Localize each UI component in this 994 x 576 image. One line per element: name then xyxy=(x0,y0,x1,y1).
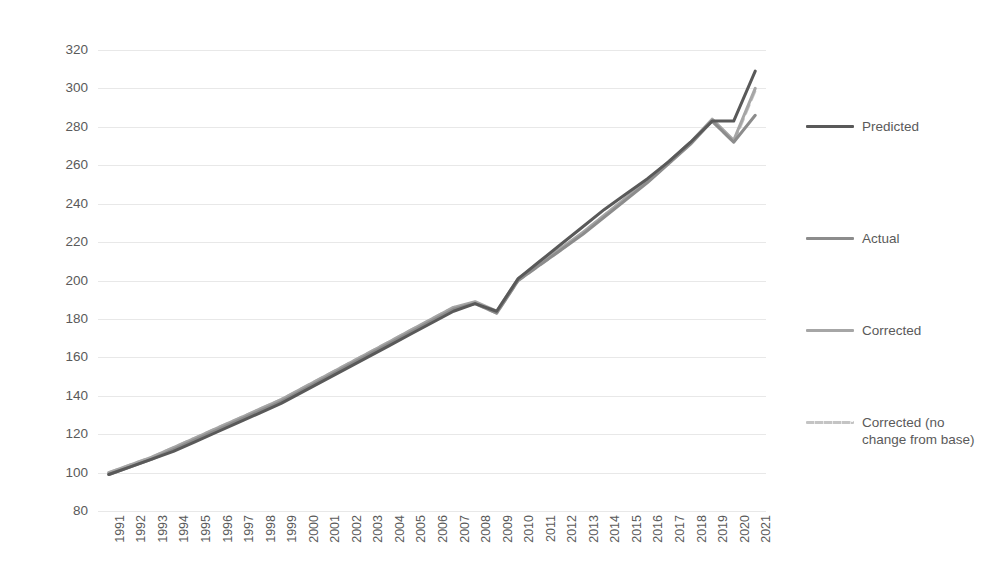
legend-label: Predicted xyxy=(862,118,919,135)
line-chart: 32030028026024022020018016014012010080 1… xyxy=(0,0,994,576)
legend-entry-predicted[interactable]: Predicted xyxy=(806,118,981,135)
series-line-corrected-no-change-from-base xyxy=(109,90,755,472)
x-tick-label: 1992 xyxy=(135,515,148,543)
y-tick-label: 200 xyxy=(65,274,98,288)
x-tick-label: 2004 xyxy=(394,515,407,543)
x-tick-label: 1997 xyxy=(243,515,256,543)
series-line-predicted xyxy=(109,71,755,474)
y-tick-label: 80 xyxy=(73,504,98,518)
x-tick-label: 1996 xyxy=(222,515,235,543)
legend-label: Corrected xyxy=(862,322,921,339)
y-tick-label: 120 xyxy=(65,427,98,441)
x-tick-label: 2017 xyxy=(674,515,687,543)
x-tick-label: 2016 xyxy=(652,515,665,543)
y-tick-label: 100 xyxy=(65,466,98,480)
x-tick-label: 1991 xyxy=(114,515,127,543)
legend-entry-corrected-no-change-from-base[interactable]: Corrected (no change from base) xyxy=(806,414,981,448)
x-tick-label: 2007 xyxy=(459,515,472,543)
x-tick-label: 2021 xyxy=(760,515,773,543)
legend-swatch-line-icon xyxy=(806,329,854,332)
y-tick-label: 160 xyxy=(65,351,98,365)
x-tick-label: 2012 xyxy=(566,515,579,543)
series-line-corrected xyxy=(109,88,755,472)
x-tick-label: 2010 xyxy=(523,515,536,543)
x-tick-label: 2006 xyxy=(437,515,450,543)
x-tick-label: 2000 xyxy=(308,515,321,543)
x-tick-label: 2009 xyxy=(502,515,515,543)
x-tick-label: 1993 xyxy=(157,515,170,543)
x-tick-label: 2001 xyxy=(329,515,342,543)
y-tick-label: 320 xyxy=(65,43,98,57)
y-tick-label: 140 xyxy=(65,389,98,403)
x-tick-label: 2018 xyxy=(696,515,709,543)
legend-label: Actual xyxy=(862,230,900,247)
x-tick-label: 2003 xyxy=(372,515,385,543)
x-tick-label: 2019 xyxy=(717,515,730,543)
x-tick-label: 2005 xyxy=(415,515,428,543)
legend-label: Corrected (no change from base) xyxy=(862,414,981,448)
x-tick-label: 2002 xyxy=(351,515,364,543)
x-tick-label: 2013 xyxy=(588,515,601,543)
y-tick-label: 180 xyxy=(65,312,98,326)
x-tick-label: 1998 xyxy=(265,515,278,543)
x-tick-label: 1999 xyxy=(286,515,299,543)
legend-entry-actual[interactable]: Actual xyxy=(806,230,981,247)
x-tick-label: 2020 xyxy=(739,515,752,543)
x-tick-label: 2011 xyxy=(545,515,558,542)
legend-swatch-line-icon xyxy=(806,125,854,128)
x-tick-label: 2015 xyxy=(631,515,644,543)
x-axis-tick-labels: 1991199219931994199519961997199819992000… xyxy=(98,511,766,576)
y-tick-label: 300 xyxy=(65,82,98,96)
x-tick-label: 1995 xyxy=(200,515,213,543)
x-tick-label: 1994 xyxy=(178,515,191,543)
legend-swatch-line-icon xyxy=(806,237,854,240)
y-tick-label: 240 xyxy=(65,197,98,211)
x-tick-label: 2008 xyxy=(480,515,493,543)
legend-entry-corrected[interactable]: Corrected xyxy=(806,322,981,339)
x-tick-label: 2014 xyxy=(609,515,622,543)
plot-area: 32030028026024022020018016014012010080 xyxy=(98,50,766,511)
y-tick-label: 220 xyxy=(65,235,98,249)
y-tick-label: 260 xyxy=(65,159,98,173)
y-tick-label: 280 xyxy=(65,120,98,134)
legend-swatch-line-icon xyxy=(806,421,854,424)
series-lines xyxy=(98,50,766,511)
